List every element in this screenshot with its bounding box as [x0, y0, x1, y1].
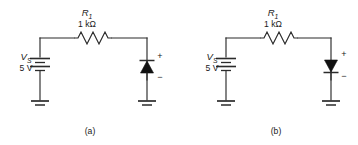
resistor-symbol-b	[260, 32, 298, 44]
resistor-value-a: 1 kΩ	[78, 19, 96, 29]
caption-a: (a)	[85, 126, 96, 136]
source-name-a: VS	[21, 51, 32, 64]
resistor-symbol-a	[74, 32, 112, 44]
source-value-b: 5 V	[206, 63, 219, 73]
resistor-name-b: R1	[268, 7, 279, 20]
resistor-name-a: R1	[82, 7, 93, 20]
diode-minus-sign-a: −	[157, 72, 162, 82]
source-value-a: 5 V	[20, 63, 33, 73]
diode-minus-sign-b: −	[341, 71, 346, 81]
circuit-diagram-a: R1 1 kΩ VS 5 V + − (a)	[0, 0, 179, 145]
caption-b: (b)	[271, 126, 282, 136]
diode-plus-sign-a: +	[157, 51, 162, 61]
diode-circuits-figure: R1 1 kΩ VS 5 V + − (a)	[0, 0, 358, 145]
diode-triangle-b	[325, 60, 338, 72]
diode-triangle-a	[141, 61, 154, 73]
source-name-b: VS	[207, 51, 218, 64]
resistor-value-b: 1 kΩ	[264, 19, 282, 29]
circuit-diagram-b: R1 1 kΩ VS 5 V + − (b)	[179, 0, 358, 145]
diode-plus-sign-b: +	[341, 49, 346, 59]
